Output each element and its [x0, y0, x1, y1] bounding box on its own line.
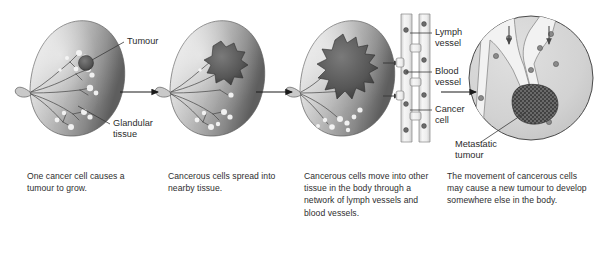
label-glandular-line2: tissue — [113, 129, 153, 140]
leader-metastatic-tumour — [481, 112, 526, 142]
inset-cancer-cells — [478, 31, 558, 124]
label-metastatic-tumour: Metastatic tumour — [455, 139, 497, 162]
metastatic-tumour-mass — [512, 84, 558, 124]
tumour-mass-1 — [79, 56, 94, 71]
tumour-mass-2 — [204, 41, 248, 85]
label-metastatic-line2: tumour — [455, 150, 497, 161]
leader-glandular-tissue — [78, 106, 110, 124]
tumour-mass-3 — [317, 34, 378, 99]
label-glandular-tissue: Glandular tissue — [113, 118, 153, 141]
label-glandular-line1: Glandular — [113, 118, 153, 129]
inset-vessel-right — [523, 16, 557, 90]
breast-outline-2 — [170, 21, 265, 136]
breast-outline-1 — [30, 21, 125, 136]
nipple-1 — [15, 87, 31, 97]
label-blood-line2: vessel — [435, 77, 461, 88]
inset-vessel-left — [475, 16, 529, 126]
caption-step-1: One cancer cell causes a tumour to grow. — [27, 170, 142, 194]
label-lymph-vessel: Lymph vessel — [435, 27, 462, 50]
nipple-3 — [285, 87, 301, 97]
metastasis-diagram: Tumour Glandular tissue Lymph vessel Blo… — [0, 0, 615, 255]
glandular-tissue-3 — [301, 66, 344, 124]
vessel-crossover-2 — [410, 78, 421, 86]
label-cancer-cell-line1: Cancer — [435, 104, 465, 115]
lobule-highlights-3 — [316, 107, 363, 132]
caption-step-2: Cancerous cells spread into nearby tissu… — [168, 170, 283, 194]
vessel-branch-2 — [396, 91, 404, 100]
inset-circle — [469, 16, 593, 140]
glandular-tissue-2 — [171, 62, 228, 126]
label-tumour: Tumour — [127, 36, 158, 47]
breast-outline-3 — [300, 21, 395, 136]
label-cancer-cell-line2: cell — [435, 115, 465, 126]
breast-sheen-2 — [170, 21, 265, 136]
glandular-tissue-1 — [31, 54, 90, 126]
vessel-crossover-1 — [410, 44, 421, 52]
nipple-2 — [155, 87, 171, 97]
label-blood-vessel: Blood vessel — [435, 66, 461, 89]
vessel-network-3 — [396, 14, 430, 142]
cancer-cells-in-vessels — [404, 22, 427, 133]
label-metastatic-line1: Metastatic — [455, 139, 497, 150]
caption-step-3: Cancerous cells move into other tissue i… — [304, 170, 439, 219]
panel-2-illustration — [155, 21, 264, 136]
blood-vessel-trunk — [419, 14, 430, 142]
label-lymph-line1: Lymph — [435, 27, 462, 38]
panel-3-illustration — [285, 14, 432, 142]
vessel-crossover-3 — [410, 112, 421, 120]
lobule-highlights-2 — [195, 68, 234, 130]
label-cancer-cell: Cancer cell — [435, 104, 465, 127]
vessel-branch-1 — [396, 58, 404, 67]
breast-sheen-3 — [300, 21, 395, 136]
label-lymph-line2: vessel — [435, 38, 462, 49]
illustration-layer — [0, 0, 615, 160]
caption-step-4: The movement of cancerous cells may caus… — [447, 170, 587, 207]
inset-vessel-branch — [528, 86, 543, 120]
lobule-highlights-1 — [55, 50, 99, 130]
panel-1-illustration — [15, 21, 124, 136]
panel-4-illustration — [469, 16, 593, 142]
breast-sheen-1 — [30, 21, 125, 136]
lymph-vessel-trunk — [401, 14, 412, 142]
leader-tumour — [92, 42, 124, 60]
label-blood-line1: Blood — [435, 66, 461, 77]
